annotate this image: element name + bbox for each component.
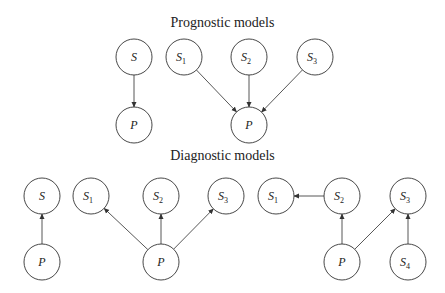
node-dS2: S2 xyxy=(143,178,179,214)
node-pS1: S1 xyxy=(166,39,202,75)
node-eS4: S4 xyxy=(390,244,426,280)
svg-text:P: P xyxy=(337,255,346,269)
edge-arrow xyxy=(196,70,236,112)
edge-arrow xyxy=(104,208,148,249)
svg-text:S: S xyxy=(39,189,45,203)
node-pP2: P xyxy=(231,107,267,143)
node-eS2: S2 xyxy=(324,178,360,214)
svg-text:S: S xyxy=(131,50,137,64)
edge-arrow xyxy=(355,209,396,250)
node-dS1: S1 xyxy=(73,178,109,214)
edge-arrow xyxy=(174,209,214,249)
model-diagram: SPS1S2S3PSPS1S2S3PS1S2S3PS4 xyxy=(0,0,445,293)
node-eP: P xyxy=(324,244,360,280)
svg-text:P: P xyxy=(156,255,165,269)
node-dP2: P xyxy=(143,244,179,280)
node-dP1: P xyxy=(24,244,60,280)
node-pS3: S3 xyxy=(297,39,333,75)
node-dS: S xyxy=(24,178,60,214)
node-eS1: S1 xyxy=(258,178,294,214)
svg-text:P: P xyxy=(129,118,138,132)
node-dS3: S3 xyxy=(208,178,244,214)
node-pS: S xyxy=(116,39,152,75)
svg-text:P: P xyxy=(244,118,253,132)
node-pP1: P xyxy=(116,107,152,143)
node-eS3: S3 xyxy=(390,178,426,214)
edge-arrow xyxy=(262,70,303,112)
svg-text:P: P xyxy=(37,255,46,269)
node-pS2: S2 xyxy=(231,39,267,75)
